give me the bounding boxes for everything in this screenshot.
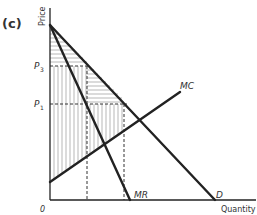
x-axis-label: Quantity <box>221 205 256 214</box>
panel-label: (c) <box>2 16 22 31</box>
curves <box>50 25 215 200</box>
demand-label: D <box>216 190 223 200</box>
price-label-p3: P 3 <box>34 61 44 73</box>
mc-label: MC <box>180 81 195 91</box>
svg-text:1: 1 <box>40 104 44 111</box>
monopoly-diagram: (c) Price Quantity 0 P 3 P 1 MC MR D <box>0 0 257 215</box>
origin-label: 0 <box>40 205 45 214</box>
mr-label: MR <box>134 190 148 200</box>
demand-curve <box>50 25 215 200</box>
price-label-p1: P 1 <box>34 99 44 111</box>
svg-text:3: 3 <box>40 66 44 73</box>
y-axis-label: Price <box>38 6 47 26</box>
